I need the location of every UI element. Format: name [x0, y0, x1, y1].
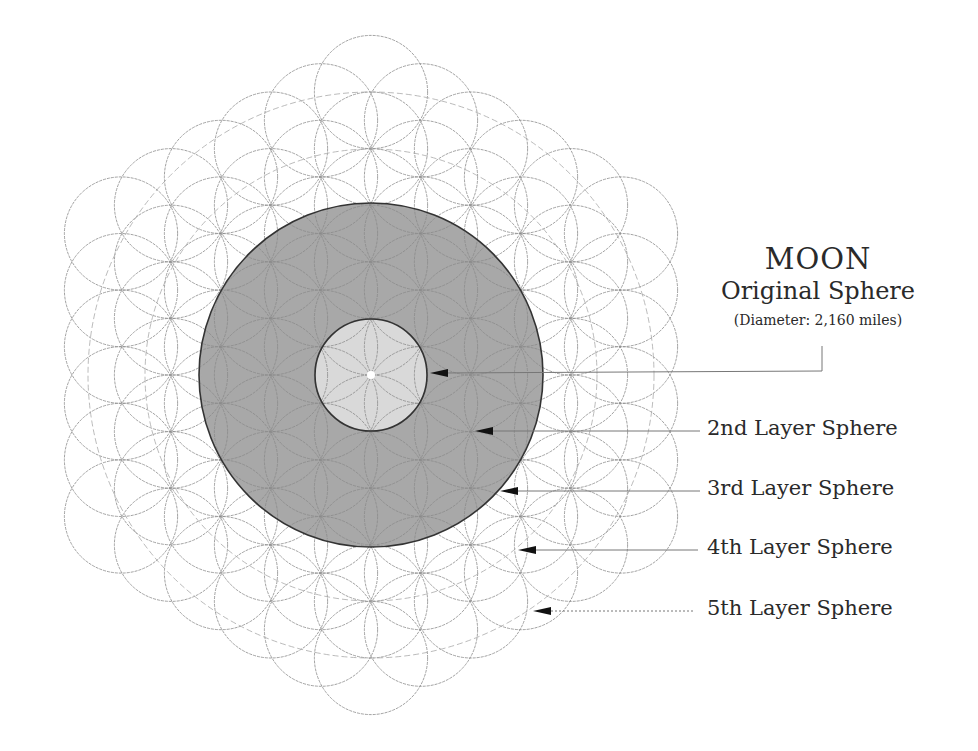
layer-5-arrow	[533, 607, 694, 615]
layer-4-arrow	[518, 546, 698, 554]
layer-5-label: 5th Layer Sphere	[707, 596, 893, 620]
layer-3-label: 3rd Layer Sphere	[707, 476, 894, 500]
diameter-note: (Diameter: 2,160 miles)	[688, 312, 948, 328]
layer-2-label: 2nd Layer Sphere	[707, 416, 898, 440]
arrowhead-icon	[500, 487, 518, 495]
original-sphere-label: Original Sphere	[688, 277, 948, 305]
center-dot	[367, 371, 375, 379]
layer-4-label: 4th Layer Sphere	[707, 535, 893, 559]
moon-title: MOON	[718, 242, 918, 276]
arrowhead-icon	[533, 607, 551, 615]
flower-of-life-diagram	[0, 0, 978, 751]
